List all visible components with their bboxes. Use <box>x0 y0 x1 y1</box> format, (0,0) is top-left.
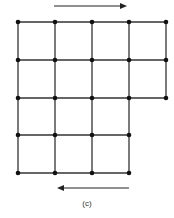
grid-node <box>53 133 58 138</box>
grid-node <box>164 20 169 25</box>
grid-node <box>53 171 58 176</box>
grid-node <box>90 20 95 25</box>
grid-node <box>127 20 132 25</box>
grid-node <box>127 171 132 176</box>
grid-node <box>16 20 21 25</box>
grid-node <box>90 133 95 138</box>
bottom-arrow-left-icon <box>57 185 129 191</box>
grid-node <box>127 133 132 138</box>
grid-node <box>16 58 21 63</box>
grid-node <box>164 58 169 63</box>
grid-node <box>53 20 58 25</box>
grid-node <box>16 96 21 101</box>
grid-node <box>90 58 95 63</box>
figure-caption: (c) <box>0 199 174 208</box>
grid-node <box>90 96 95 101</box>
top-arrow-right-icon <box>54 3 127 9</box>
grid-node <box>53 96 58 101</box>
grid-diagram <box>0 0 174 218</box>
grid-node <box>127 96 132 101</box>
grid-node <box>16 171 21 176</box>
grid-node <box>16 133 21 138</box>
grid-node <box>127 58 132 63</box>
grid-node <box>90 171 95 176</box>
grid-node <box>164 96 169 101</box>
grid-node <box>53 58 58 63</box>
